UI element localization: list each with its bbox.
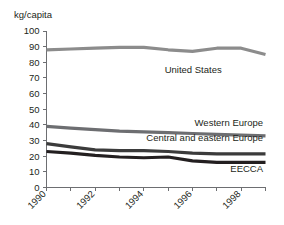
y-tick-label: 20: [29, 151, 40, 162]
series-label-1: Western Europe: [195, 117, 263, 128]
y-axis-unit-label: kg/capita: [14, 9, 53, 20]
y-tick-label: 80: [29, 57, 40, 68]
y-axis-ticks: 0102030405060708090100: [24, 25, 47, 193]
y-tick-label: 60: [29, 88, 40, 99]
series-label-2: Central and eastern Europe: [146, 132, 263, 143]
y-tick-label: 90: [29, 41, 40, 52]
x-tick-label: 1992: [74, 188, 97, 211]
x-tick-label: 1994: [123, 188, 146, 211]
series-lines: [47, 47, 266, 162]
x-axis-ticks: 19901992199419961998: [25, 188, 265, 211]
series-label-0: United States: [165, 64, 222, 75]
line-chart: kg/capita 0102030405060708090100 1990199…: [0, 0, 284, 225]
y-tick-label: 30: [29, 135, 40, 146]
y-tick-label: 40: [29, 119, 40, 130]
series-label-3: EECCA: [230, 163, 263, 174]
x-tick-label: 1998: [220, 188, 243, 211]
chart-container: kg/capita 0102030405060708090100 1990199…: [0, 0, 284, 225]
series-line-0: [47, 47, 266, 54]
y-tick-label: 70: [29, 72, 40, 83]
y-tick-label: 50: [29, 104, 40, 115]
y-axis-unit-group: kg/capita: [14, 9, 53, 20]
x-tick-label: 1996: [171, 188, 194, 211]
x-tick-label: 1990: [25, 188, 48, 211]
y-tick-label: 10: [29, 166, 40, 177]
y-tick-label: 100: [24, 25, 40, 36]
